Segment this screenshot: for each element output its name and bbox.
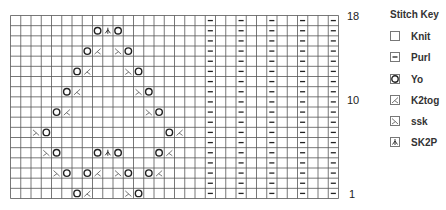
legend-label: Knit <box>411 31 430 42</box>
circle-icon <box>390 74 400 84</box>
legend-item-knit: Knit <box>390 30 430 42</box>
legend-label: ssk <box>411 116 428 127</box>
stitch-key-title: Stitch Key <box>390 9 439 20</box>
right-slant-icon <box>390 95 400 105</box>
left-slant-icon <box>390 116 400 126</box>
legend-item-k2tog: K2tog <box>390 94 439 106</box>
row-label-1: 1 <box>349 188 355 200</box>
legend-label: K2tog <box>411 95 439 106</box>
double-decrease-icon <box>390 137 400 147</box>
legend-item-yo: Yo <box>390 73 423 85</box>
row-label-18: 18 <box>347 10 359 22</box>
legend-label: SK2P <box>411 137 437 148</box>
empty-square-icon <box>390 31 400 41</box>
legend-label: Purl <box>411 52 430 63</box>
legend-label: Yo <box>411 74 423 85</box>
row-label-10: 10 <box>347 94 359 106</box>
legend-item-ssk: ssk <box>390 115 428 127</box>
legend-item-sk2p: SK2P <box>390 136 437 148</box>
legend-item-purl: Purl <box>390 51 430 63</box>
stitch-chart <box>10 15 338 198</box>
dash-icon <box>390 52 400 62</box>
